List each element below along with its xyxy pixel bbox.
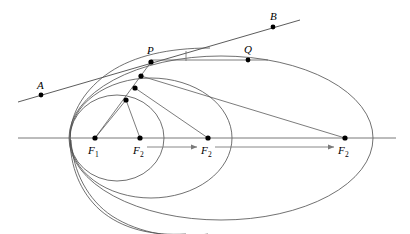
ray-f2c-to-t1: [141, 76, 345, 138]
point-t2-dot: [132, 85, 137, 90]
label-point-q: Q: [244, 44, 252, 55]
focus-2a-dot: [137, 135, 142, 140]
point-b-dot: [271, 25, 276, 30]
focus-1-dot: [92, 135, 97, 140]
focus-2b-dot: [205, 135, 210, 140]
ray-f2a-to-t3: [126, 100, 140, 138]
label-point-p: P: [147, 45, 154, 56]
point-t3-dot: [123, 97, 128, 102]
label-point-b: B: [270, 11, 277, 22]
label-focus-2b: F2: [201, 145, 211, 156]
label-focus-1-subscript: 1: [95, 150, 99, 159]
tangent-line-ab: [18, 20, 300, 102]
label-focus-2c-subscript: 2: [345, 150, 349, 159]
conic-family: [69, 48, 373, 234]
label-focus-2a-subscript: 2: [140, 150, 144, 159]
label-focus-2c: F2: [338, 145, 348, 156]
figure-canvas: [0, 0, 410, 234]
label-focus-1-letter: F: [88, 144, 95, 156]
ray-f2b-to-t2: [135, 88, 208, 138]
label-focus-2c-letter: F: [338, 144, 345, 156]
ray-f1-to-p: [95, 62, 151, 138]
focus-2c-dot: [342, 135, 347, 140]
geometry-figure: A B P Q F1 F2 F2 F2: [0, 0, 410, 234]
focal-rays: [95, 62, 345, 138]
label-focus-2b-letter: F: [201, 144, 208, 156]
label-focus-2b-subscript: 2: [208, 150, 212, 159]
label-focus-2a: F2: [133, 145, 143, 156]
label-focus-1: F1: [88, 145, 98, 156]
point-t1-dot: [138, 73, 143, 78]
point-a-dot: [39, 93, 44, 98]
label-focus-2a-letter: F: [133, 144, 140, 156]
point-p-dot: [148, 59, 153, 64]
point-q-dot: [246, 58, 251, 63]
open-branch-upper: [70, 48, 210, 138]
label-point-a: A: [37, 80, 44, 91]
